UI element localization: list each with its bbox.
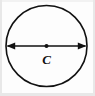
circle-diameter-diagram: C: [0, 0, 95, 96]
arrowhead-left-icon: [7, 42, 16, 49]
arrowhead-right-icon: [78, 42, 87, 49]
center-point-dot: [45, 44, 49, 48]
center-point-label: C: [42, 52, 51, 67]
figure-canvas: C: [0, 0, 95, 96]
